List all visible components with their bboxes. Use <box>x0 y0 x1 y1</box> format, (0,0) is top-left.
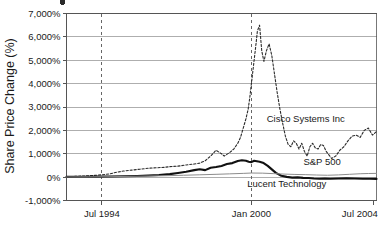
x-axis-tick-label: Jul 1994 <box>84 208 120 219</box>
y-axis-tick-label: -1,000% <box>25 195 61 206</box>
y-axis-tick-label: 3,000% <box>28 101 61 112</box>
series-label-cisco-systems-inc: Cisco Systems Inc <box>267 113 345 124</box>
y-axis-tick-label: 5,000% <box>28 55 61 66</box>
y-axis-tick-label: 4,000% <box>28 78 61 89</box>
y-axis-tick-label: 0% <box>47 172 61 183</box>
y-axis-tick-label: 6,000% <box>28 31 61 42</box>
y-axis-tick-label: 7,000% <box>28 8 61 19</box>
chart-canvas: 7,000%6,000%5,000%4,000%3,000%2,000%1,00… <box>0 0 384 232</box>
x-axis-tick-label: Jan 2000 <box>232 208 271 219</box>
title-glyph-fragment <box>61 0 64 5</box>
y-axis-tick-label: 1,000% <box>28 148 61 159</box>
series-label-lucent-technology: Lucent Technology <box>247 178 326 189</box>
x-axis-tick-label: Jul 2004 <box>342 208 378 219</box>
series-label-s-p-500: S&P 500 <box>303 156 340 167</box>
y-axis-tick-label: 2,000% <box>28 125 61 136</box>
share-price-change-chart: 7,000%6,000%5,000%4,000%3,000%2,000%1,00… <box>0 0 384 232</box>
y-axis-title: Share Price Change (%) <box>3 38 17 173</box>
